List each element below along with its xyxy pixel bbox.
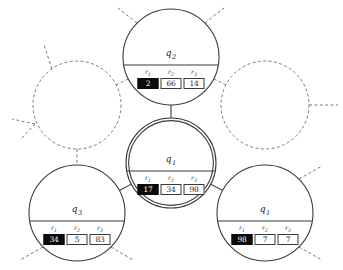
node-center-register-value-1[interactable]: 17	[138, 184, 159, 195]
node-center-register-headers: r1r2r3	[137, 174, 206, 184]
node-top-register-header-1: r1	[138, 68, 159, 78]
node-bottom-left-register-header-1: r1	[44, 224, 65, 234]
edge-top-ghost-left	[116, 79, 128, 85]
node-center-register-header-3: r3	[184, 174, 205, 184]
node-bottom-left-register-value-2[interactable]: 5	[67, 234, 88, 245]
node-bottom-right-label-subscript: 1	[266, 209, 270, 217]
node-bottom-right-register-cells: 9877	[231, 234, 300, 245]
stub-top-upright	[205, 8, 224, 23]
node-bottom-right-register-value-2[interactable]: 7	[255, 234, 276, 245]
node-bottom-right-register-headers: r1r2r3	[231, 224, 300, 234]
node-bottom-left-register-header-3: r3	[90, 224, 111, 234]
node-top-register-table: r1r2r326614	[137, 68, 206, 89]
node-bottom-left-register-value-3[interactable]: 83	[90, 234, 111, 245]
node-top-register-value-2[interactable]: 66	[161, 78, 182, 89]
node-bottom-left-register-header-2: r2	[67, 224, 88, 234]
node-center-register-header-1: r1	[138, 174, 159, 184]
stub-top-upleft	[118, 8, 137, 23]
node-center-register-header-2: r2	[161, 174, 182, 184]
stub-bottom-right-downright	[299, 247, 322, 260]
node-top-register-header-3: r3	[184, 68, 205, 78]
node-bottom-left-register-value-1[interactable]: 34	[44, 234, 65, 245]
node-top-register-cells: 26614	[137, 78, 206, 89]
stub-bottom-left-downright	[111, 247, 133, 260]
stub-bottom-right-upright	[299, 166, 322, 179]
node-center-register-value-2[interactable]: 34	[161, 184, 182, 195]
node-top-label-subscript: 2	[171, 53, 176, 61]
edge-top-ghost-right	[214, 79, 226, 85]
stub-ghost-left-up	[44, 45, 52, 69]
node-center-register-cells: 173498	[137, 184, 206, 195]
stub-bottom-left-downleft	[20, 247, 43, 260]
node-bottom-right-register-value-3[interactable]: 7	[278, 234, 299, 245]
node-top-register-value-1[interactable]: 2	[138, 78, 159, 89]
automaton-diagram: q2q1q3q1 r1r2r326614r1r2r3173498r1r2r334…	[0, 0, 343, 270]
edge-center-bottom-left	[119, 184, 131, 190]
node-bottom-left-label-subscript: 3	[78, 209, 82, 217]
stub-ghost-left-left	[12, 119, 35, 124]
node-bottom-left-register-table: r1r2r334583	[43, 224, 112, 245]
node-bottom-right-register-value-1[interactable]: 98	[232, 234, 253, 245]
node-top-register-header-2: r2	[161, 68, 182, 78]
node-top-register-headers: r1r2r3	[137, 68, 206, 78]
node-bottom-right-register-table: r1r2r39877	[231, 224, 300, 245]
node-center-register-value-3[interactable]: 98	[184, 184, 205, 195]
node-bottom-right-register-header-2: r2	[255, 224, 276, 234]
edge-center-bottom-right	[211, 184, 223, 190]
node-bottom-right-register-header-1: r1	[232, 224, 253, 234]
node-ghost-left-circle	[33, 61, 121, 149]
node-bottom-left-register-cells: 34583	[43, 234, 112, 245]
node-center-register-table: r1r2r3173498	[137, 174, 206, 195]
node-bottom-left-register-headers: r1r2r3	[43, 224, 112, 234]
node-top-register-value-3[interactable]: 14	[184, 78, 205, 89]
node-bottom-right-register-header-3: r3	[278, 224, 299, 234]
node-ghost-right-circle	[221, 61, 309, 149]
node-center-label-subscript: 1	[172, 159, 176, 167]
stub-ghost-left-downleft	[20, 124, 35, 140]
